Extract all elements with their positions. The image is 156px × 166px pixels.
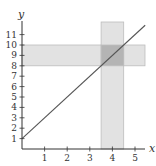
y-tick-label: 11: [6, 30, 17, 40]
x-tick-label: 2: [64, 153, 70, 163]
y-tick-label: 9: [11, 50, 17, 60]
y-axis-label: y: [17, 8, 25, 21]
x-tick-label: 3: [87, 153, 93, 163]
y-tick-label: 5: [11, 92, 17, 102]
chart: 123451234567891011 x y: [0, 0, 156, 166]
y-tick-label: 2: [11, 123, 17, 133]
line-y-2x-plus-1: [22, 25, 145, 138]
shaded-bands: [22, 22, 145, 149]
y-tick-label: 10: [6, 40, 18, 50]
x-tick-label: 5: [132, 153, 138, 163]
data-line: [22, 25, 145, 138]
horizontal-band: [22, 45, 145, 66]
y-tick-label: 1: [11, 134, 17, 144]
y-tick-label: 3: [11, 113, 17, 123]
y-tick-label: 8: [11, 61, 17, 71]
y-tick-label: 6: [11, 82, 17, 92]
x-tick-label: 1: [42, 153, 48, 163]
x-axis-label: x: [149, 142, 156, 155]
y-tick-label: 4: [11, 102, 17, 112]
axes: [22, 21, 145, 149]
y-tick-label: 7: [11, 71, 17, 81]
x-tick-label: 4: [110, 153, 116, 163]
vertical-band: [101, 22, 124, 149]
